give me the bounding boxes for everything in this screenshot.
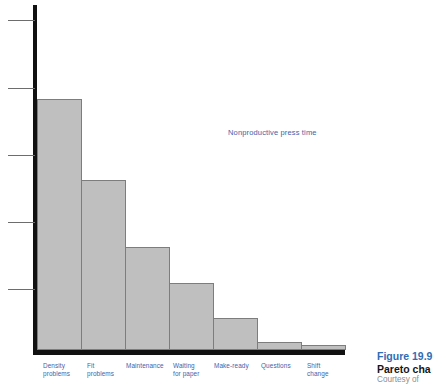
bar-waiting-for-paper <box>169 283 214 350</box>
category-label-line: for paper <box>173 370 199 378</box>
category-label-waiting-for-paper: Waiting for paper <box>173 362 199 379</box>
y-axis-tick <box>8 155 35 156</box>
category-label-density-problems: Density problems <box>43 362 70 379</box>
category-label-line: Questions <box>261 362 291 370</box>
y-axis-tick <box>8 20 35 21</box>
category-label-line: change <box>307 370 329 378</box>
category-label-line: Shift <box>307 362 329 370</box>
category-label-line: Waiting <box>173 362 199 370</box>
bar-fit-problems <box>81 180 126 350</box>
bar-make-ready <box>213 318 258 350</box>
category-label-questions: Questions <box>261 362 291 370</box>
category-label-maintenance: Maintenance <box>126 362 164 370</box>
category-label-make-ready: Make-ready <box>214 362 249 370</box>
category-label-line: Make-ready <box>214 362 249 370</box>
figure-number: Figure 19.9 <box>377 350 441 363</box>
x-axis <box>33 350 345 355</box>
bar-series <box>37 0 347 350</box>
category-axis-labels: Density problems Fit problems Maintenanc… <box>37 362 349 388</box>
figure-caption: Figure 19.9 Pareto cha Courtesy of <box>377 350 441 385</box>
figure-title: Pareto cha <box>377 363 441 376</box>
figure-page: Nonproductive press time Density problem… <box>0 0 441 389</box>
figure-credit: Courtesy of <box>377 375 441 385</box>
category-label-fit-problems: Fit problems <box>87 362 114 379</box>
category-label-shift-change: Shift change <box>307 362 329 379</box>
y-axis-tick <box>8 88 35 89</box>
pareto-chart: Nonproductive press time Density problem… <box>0 0 360 389</box>
bar-questions <box>257 342 302 350</box>
y-axis-tick <box>8 289 35 290</box>
category-label-line: problems <box>87 370 114 378</box>
category-label-line: Maintenance <box>126 362 164 370</box>
bar-shift-change <box>301 345 346 350</box>
y-axis-tick <box>8 222 35 223</box>
category-label-line: problems <box>43 370 70 378</box>
category-label-line: Fit <box>87 362 114 370</box>
category-label-line: Density <box>43 362 70 370</box>
chart-annotation: Nonproductive press time <box>228 128 317 137</box>
bar-density-problems <box>37 99 82 350</box>
bar-maintenance <box>125 247 170 350</box>
